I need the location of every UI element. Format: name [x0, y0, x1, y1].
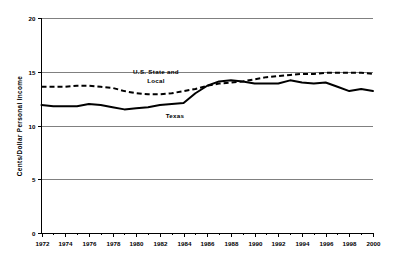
x-tick-label-1998: 1998 — [343, 240, 357, 247]
x-tick-label-1978: 1978 — [107, 240, 121, 247]
x-tick-label-1974: 1974 — [59, 240, 73, 247]
x-tick-label-1982: 1982 — [154, 240, 168, 247]
x-tick-label-1988: 1988 — [225, 240, 239, 247]
chart-figure: 05101520 1972197419761978198019821984198… — [0, 0, 397, 260]
y-tick-label-15: 15 — [29, 69, 36, 76]
x-tick-label-1996: 1996 — [320, 240, 334, 247]
line-chart: 05101520 1972197419761978198019821984198… — [0, 0, 397, 260]
x-tick-label-1986: 1986 — [201, 240, 215, 247]
y-tick-label-10: 10 — [29, 123, 36, 130]
x-tick-label-1984: 1984 — [178, 240, 192, 247]
x-tick-label-2000: 2000 — [367, 240, 381, 247]
x-tick-label-1976: 1976 — [83, 240, 97, 247]
x-tick-label-1992: 1992 — [272, 240, 286, 247]
y-axis-title: Cents/Dollar Personal Income — [16, 76, 23, 176]
x-axis-tick-labels: 1972197419761978198019821984198619881990… — [36, 240, 381, 247]
x-tick-label-1994: 1994 — [296, 240, 310, 247]
chart-background — [0, 0, 397, 260]
x-tick-label-1990: 1990 — [249, 240, 263, 247]
annotation-us-state-and-local-line1: U.S. State and — [133, 68, 179, 75]
x-tick-label-1980: 1980 — [130, 240, 144, 247]
y-tick-label-0: 0 — [32, 230, 36, 237]
x-tick-label-1972: 1972 — [36, 240, 50, 247]
annotation-texas: Texas — [166, 112, 185, 119]
annotation-us-state-and-local-line2: Local — [147, 77, 165, 84]
y-tick-label-20: 20 — [29, 15, 36, 22]
y-tick-label-5: 5 — [32, 176, 36, 183]
